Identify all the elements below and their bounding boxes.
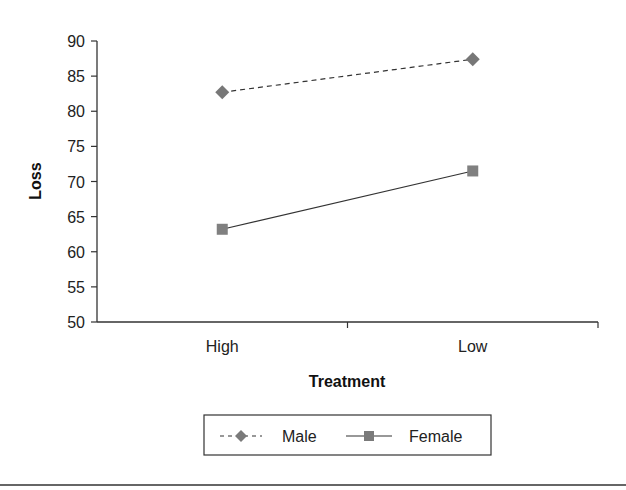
y-tick-label: 55: [67, 279, 85, 296]
y-tick-label: 50: [67, 314, 85, 331]
x-axis-ticks: [348, 322, 599, 328]
series-layer: [215, 52, 480, 235]
y-tick-label: 75: [67, 138, 85, 155]
y-tick-label: 70: [67, 174, 85, 191]
diamond-marker-icon: [215, 85, 229, 99]
y-tick-label: 90: [67, 33, 85, 50]
square-marker-icon: [467, 165, 478, 176]
series-male: [215, 52, 480, 99]
diamond-marker-icon: [466, 52, 480, 66]
y-axis-title: Loss: [27, 162, 44, 199]
y-axis-ticks: 505560657075808590: [67, 33, 97, 331]
y-tick-label: 65: [67, 209, 85, 226]
legend: Male Female: [204, 415, 491, 455]
y-tick-label: 85: [67, 68, 85, 85]
y-tick-label: 80: [67, 103, 85, 120]
legend-male-label: Male: [282, 428, 317, 445]
legend-female-square-icon: [364, 431, 374, 441]
series-line: [222, 171, 473, 229]
y-tick-label: 60: [67, 244, 85, 261]
legend-female-label: Female: [409, 428, 462, 445]
series-line: [222, 59, 473, 92]
x-axis-title: Treatment: [309, 373, 386, 390]
square-marker-icon: [217, 224, 228, 235]
x-axis-labels: HighLow: [206, 338, 488, 355]
x-tick-label: Low: [458, 338, 488, 355]
x-tick-label: High: [206, 338, 239, 355]
line-chart: 505560657075808590 HighLow Loss Treatmen…: [0, 0, 626, 490]
series-female: [217, 165, 479, 234]
